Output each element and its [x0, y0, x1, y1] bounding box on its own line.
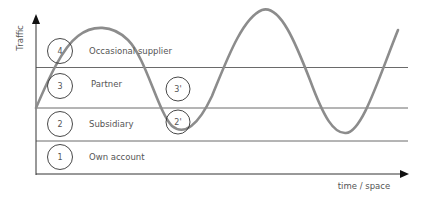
level-1-label: Own account	[89, 152, 145, 162]
marker-3-prime-number: 3'	[174, 85, 181, 94]
marker-3-prime: 3'	[166, 77, 190, 101]
level-4-number: 4	[57, 47, 62, 56]
y-axis-label: Traffic	[15, 25, 25, 52]
x-axis-arrow-icon	[400, 170, 409, 178]
traffic-level-diagram: Traffic time / space 4 Occasional suppli…	[0, 0, 423, 201]
level-3-number: 3	[57, 82, 62, 91]
level-2-number: 2	[57, 120, 62, 129]
x-axis	[36, 170, 409, 178]
traffic-curve	[36, 9, 398, 133]
level-4-label: Occasional supplier	[89, 46, 172, 56]
level-4: 4 Occasional supplier	[48, 39, 173, 64]
level-2-label: Subsidiary	[89, 119, 133, 129]
level-2: 2 Subsidiary	[48, 112, 134, 137]
y-axis	[32, 14, 40, 175]
level-3: 3 Partner	[48, 74, 123, 99]
level-3-label: Partner	[91, 79, 122, 89]
level-1: 1 Own account	[48, 145, 146, 170]
marker-2-prime-number: 2'	[174, 118, 181, 127]
x-axis-label: time / space	[338, 181, 390, 191]
y-axis-arrow-icon	[32, 14, 40, 24]
level-1-number: 1	[57, 153, 62, 162]
